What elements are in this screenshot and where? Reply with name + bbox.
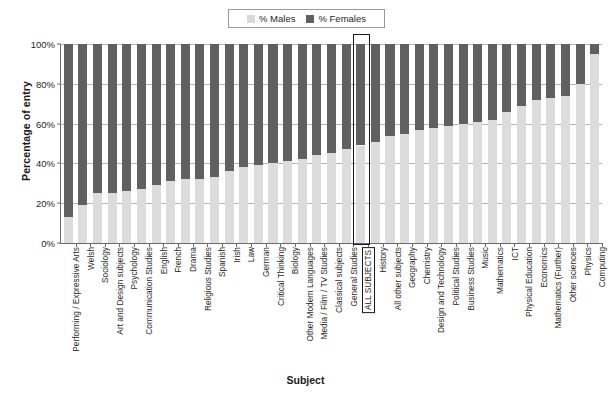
bar-segment-males <box>532 100 541 243</box>
stacked-bar <box>546 44 555 243</box>
y-tick-label: 40% <box>36 158 55 169</box>
bar-segment-females <box>108 44 117 193</box>
x-tick-label: Business Studies <box>467 247 476 311</box>
stacked-bar <box>166 44 175 243</box>
bar-segment-males <box>283 161 292 243</box>
stacked-bar <box>137 44 146 243</box>
bar-segment-females <box>590 44 599 54</box>
bar-segment-females <box>312 44 321 155</box>
bar-segment-females <box>166 44 175 181</box>
y-tick-label: 60% <box>36 118 55 129</box>
plot-area: 0%20%40%60%80%100% <box>61 44 602 243</box>
bar-segment-males <box>210 177 219 243</box>
stacked-bar <box>122 44 131 243</box>
stacked-bar <box>181 44 190 243</box>
x-tick-label: Computing <box>598 247 607 287</box>
stacked-bar <box>517 44 526 243</box>
bar-segment-males <box>181 179 190 243</box>
bar-segment-males <box>473 122 482 243</box>
x-tick-label: Physics <box>584 247 593 276</box>
x-tick-label: Welsh <box>87 247 96 270</box>
x-axis-line <box>60 243 602 244</box>
x-tick-label: Art and Design subjects <box>116 247 125 335</box>
x-tick-label: Mathematics (Further) <box>554 247 563 329</box>
x-tick-label: Other sciences <box>569 247 578 302</box>
x-tick-label: Sociology <box>101 247 110 283</box>
bar-segment-females <box>195 44 204 179</box>
x-tick-label: Religious Studies <box>204 247 213 311</box>
y-axis-title: Percentage of entry <box>20 61 32 201</box>
x-tick-label: Physical Education <box>525 247 534 317</box>
legend-swatch-females-icon <box>306 15 314 23</box>
x-tick-label: Critical Thinking <box>277 247 286 306</box>
x-tick-label: Communication Studies <box>145 247 154 335</box>
x-tick-label: French <box>174 247 183 273</box>
stacked-bar <box>444 44 453 243</box>
stacked-bar <box>342 44 351 243</box>
x-tick-label: Spanish <box>218 247 227 277</box>
stacked-bar <box>78 44 87 243</box>
bar-segment-males <box>298 159 307 243</box>
x-tick-label: Performing / Expressive Arts <box>72 247 81 352</box>
bar-segment-males <box>415 130 424 243</box>
stacked-bar <box>356 44 365 243</box>
stacked-bar <box>210 44 219 243</box>
x-tick-label: ICT <box>511 247 520 260</box>
stacked-bar <box>415 44 424 243</box>
bar-segment-females <box>502 44 511 112</box>
x-tick-label: Geography <box>408 247 417 288</box>
bar-segment-females <box>268 44 277 163</box>
stacked-bar <box>400 44 409 243</box>
stacked-bar <box>64 44 73 243</box>
x-tick-label: History <box>379 247 388 273</box>
bar-segment-males <box>400 134 409 243</box>
bar-segment-males <box>488 120 497 243</box>
stacked-bar <box>254 44 263 243</box>
bar-segment-males <box>327 153 336 243</box>
x-tick-label: Irish <box>233 247 242 263</box>
bar-segment-females <box>78 44 87 205</box>
stacked-bar <box>429 44 438 243</box>
bar-segment-females <box>64 44 73 217</box>
x-tick-label: General Studies <box>350 247 359 307</box>
bar-segment-males <box>93 193 102 243</box>
stacked-bar <box>502 44 511 243</box>
chart-figure: % Males % Females Percentage of entry 0%… <box>0 0 611 397</box>
bar-segment-females <box>239 44 248 167</box>
stacked-bar <box>473 44 482 243</box>
bar-segment-males <box>137 189 146 243</box>
bar-segment-females <box>385 44 394 136</box>
legend-entry-females: % Females <box>306 13 366 24</box>
bar-segment-females <box>517 44 526 106</box>
bar-segment-males <box>239 167 248 243</box>
bar-segment-females <box>342 44 351 149</box>
x-tick-label: Economics <box>540 247 549 288</box>
stacked-bar <box>312 44 321 243</box>
x-tick-label: Music <box>481 247 490 269</box>
bar-segment-females <box>137 44 146 189</box>
bar-segment-females <box>576 44 585 84</box>
bar-segment-females <box>298 44 307 159</box>
bar-segment-males <box>459 124 468 243</box>
bar-segment-females <box>459 44 468 124</box>
bar-segment-males <box>122 191 131 243</box>
x-tick-label: Design and Technology <box>437 247 446 333</box>
x-axis-title: Subject <box>0 374 611 386</box>
legend-label-males: % Males <box>259 13 295 24</box>
bar-segment-females <box>488 44 497 120</box>
bar-segment-females <box>225 44 234 171</box>
stacked-bar <box>225 44 234 243</box>
x-axis-category-labels: Performing / Expressive ArtsWelshSociolo… <box>61 247 602 367</box>
bar-segment-males <box>371 142 380 243</box>
bar-series-group <box>61 44 602 243</box>
bar-segment-females <box>429 44 438 128</box>
bar-segment-males <box>356 146 365 244</box>
stacked-bar <box>459 44 468 243</box>
bar-segment-females <box>210 44 219 177</box>
bar-segment-females <box>371 44 380 142</box>
bar-segment-females <box>444 44 453 126</box>
bar-segment-females <box>400 44 409 134</box>
bar-segment-females <box>473 44 482 122</box>
x-tick-label: ALL SUBJECTS <box>362 247 375 313</box>
stacked-bar <box>283 44 292 243</box>
